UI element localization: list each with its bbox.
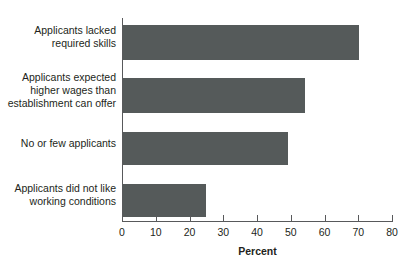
bar-chart-figure: Applicants lacked required skills Applic…: [0, 0, 412, 267]
category-label-line: Applicants expected: [4, 71, 116, 84]
category-label-line: Applicants did not like: [4, 182, 116, 195]
category-label: Applicants lacked required skills: [4, 24, 122, 50]
bar: [123, 25, 359, 60]
x-axis-tick-mark: [392, 215, 393, 221]
bar: [123, 78, 305, 113]
category-label-line: working conditions: [4, 195, 116, 208]
category-label: Applicants did not like working conditio…: [4, 182, 122, 208]
category-label: Applicants expected higher wages than es…: [4, 71, 122, 110]
x-axis-tick-mark: [291, 215, 292, 221]
bar: [123, 132, 288, 165]
x-axis-tick-mark: [257, 215, 258, 221]
x-axis-tick-mark: [122, 215, 123, 221]
category-label-line: Applicants lacked: [4, 24, 116, 37]
bar-row: [123, 184, 206, 217]
category-label-line: higher wages than: [4, 84, 116, 97]
category-label-line: required skills: [4, 37, 116, 50]
bar: [123, 184, 206, 217]
bar-row: [123, 78, 305, 113]
category-label: No or few applicants: [4, 137, 122, 150]
plot-area: 01020304050607080: [122, 18, 392, 221]
x-axis-tick-mark: [358, 215, 359, 221]
chart-title: [8, 0, 404, 3]
category-label-line: No or few applicants: [4, 137, 116, 150]
category-label-line: establishment can offer: [4, 97, 116, 110]
bar-row: [123, 132, 288, 165]
category-axis-labels: Applicants lacked required skills Applic…: [0, 18, 122, 221]
x-axis-tick-mark: [190, 215, 191, 221]
x-axis-tick-mark: [223, 215, 224, 221]
x-axis-title: Percent: [122, 245, 393, 257]
x-axis-tick-mark: [156, 215, 157, 221]
bar-row: [123, 25, 359, 60]
x-axis-tick-mark: [325, 215, 326, 221]
x-axis-tick-label: 80: [372, 226, 412, 239]
x-axis-line: [122, 221, 393, 222]
